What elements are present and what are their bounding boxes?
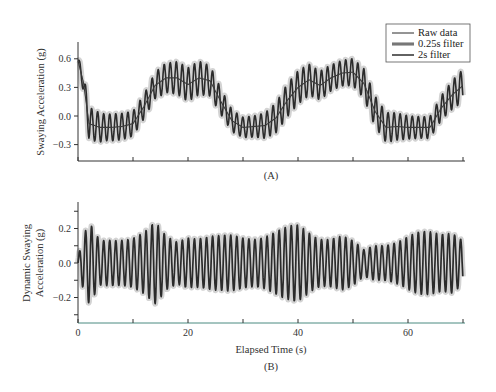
panel-b-caption: (B) — [264, 361, 279, 373]
svg-text:0.6: 0.6 — [59, 53, 72, 64]
panel-b: 0204060 −0.20.00.2 Dynamic Swaying Accel… — [21, 202, 465, 373]
svg-text:−0.2: −0.2 — [53, 292, 71, 303]
svg-text:Raw data: Raw data — [418, 27, 458, 38]
panel-a-y-ticks: −0.30.00.30.6 — [53, 53, 78, 150]
svg-text:40: 40 — [293, 327, 303, 338]
panel-a-caption: (A) — [264, 170, 279, 182]
panel-b-x-ticks: 0204060 — [76, 319, 464, 338]
panel-a: −0.30.00.30.6 Swaying Acceleration (g) (… — [35, 24, 470, 182]
svg-text:0: 0 — [76, 327, 81, 338]
svg-text:0.3: 0.3 — [59, 82, 72, 93]
svg-text:0.2: 0.2 — [59, 223, 72, 234]
panel-b-y-ticks: −0.20.00.2 — [53, 211, 78, 315]
svg-text:2s filter: 2s filter — [418, 49, 451, 60]
figure: −0.30.00.30.6 Swaying Acceleration (g) (… — [0, 0, 496, 392]
svg-text:−0.3: −0.3 — [53, 139, 71, 150]
svg-text:0.0: 0.0 — [59, 111, 72, 122]
legend: Raw data 0.25s filter 2s filter — [386, 24, 470, 62]
panel-a-x-ticks — [78, 157, 463, 161]
panel-b-y-label: Dynamic Swaying — [21, 223, 32, 302]
svg-text:0.0: 0.0 — [59, 258, 72, 269]
svg-text:60: 60 — [403, 327, 413, 338]
svg-text:0.25s filter: 0.25s filter — [418, 38, 464, 49]
panel-a-y-label: Swaying Acceleration (g) — [35, 48, 47, 156]
svg-text:20: 20 — [183, 327, 193, 338]
panel-b-y-label-line2: Acceleration (g) — [34, 228, 46, 297]
panel-b-x-label: Elapsed Time (s) — [235, 344, 307, 356]
